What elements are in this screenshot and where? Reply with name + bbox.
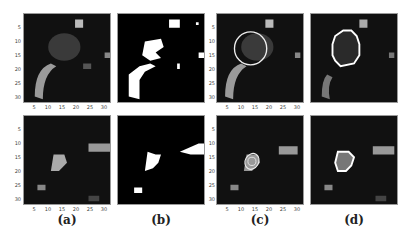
y-tick: 10	[9, 38, 21, 44]
x-tick: 20	[70, 206, 82, 212]
grayscale-with-circle-contour	[217, 14, 303, 102]
x-tick: 10	[235, 206, 247, 212]
y-tick: 5	[203, 24, 215, 30]
y-tick: 30	[203, 196, 215, 202]
y-tick: 5	[9, 126, 21, 132]
x-tick: 5	[28, 104, 40, 110]
grayscale-image	[24, 116, 110, 204]
x-tick: 5	[221, 206, 233, 212]
panel-b-top	[117, 13, 205, 103]
y-tick: 25	[9, 80, 21, 86]
x-tick: 10	[42, 104, 54, 110]
y-tick: 25	[203, 80, 215, 86]
x-tick: 20	[70, 104, 82, 110]
panel-a-bottom	[23, 115, 111, 205]
caption-c: (c)	[240, 213, 280, 227]
caption-b: (b)	[141, 213, 181, 227]
grayscale-with-boundary	[311, 14, 397, 102]
x-tick: 15	[56, 206, 68, 212]
x-tick: 15	[56, 104, 68, 110]
panel-c-bottom	[216, 115, 304, 205]
y-tick: 25	[9, 182, 21, 188]
panel-a-top	[23, 13, 111, 103]
grayscale-with-boundary	[311, 116, 397, 204]
y-tick: 25	[203, 182, 215, 188]
x-tick: 5	[221, 104, 233, 110]
x-tick: 25	[84, 104, 96, 110]
x-tick: 30	[291, 104, 303, 110]
y-tick: 20	[203, 66, 215, 72]
y-tick: 20	[9, 168, 21, 174]
panel-c-top	[216, 13, 304, 103]
x-tick: 10	[42, 206, 54, 212]
x-tick: 5	[28, 206, 40, 212]
x-tick: 30	[98, 104, 110, 110]
x-tick: 25	[277, 104, 289, 110]
y-tick: 10	[9, 140, 21, 146]
y-tick: 5	[203, 126, 215, 132]
y-tick: 10	[203, 38, 215, 44]
x-tick: 15	[249, 206, 261, 212]
y-tick: 15	[9, 154, 21, 160]
grayscale-image	[24, 14, 110, 102]
x-tick: 30	[98, 206, 110, 212]
y-tick: 10	[203, 140, 215, 146]
caption-a: (a)	[47, 213, 87, 227]
binary-mask	[118, 14, 204, 102]
y-tick: 15	[203, 52, 215, 58]
caption-d: (d)	[334, 213, 374, 227]
y-tick: 30	[203, 94, 215, 100]
y-tick: 15	[9, 52, 21, 58]
y-tick: 15	[203, 154, 215, 160]
y-tick: 20	[203, 168, 215, 174]
grayscale-with-contours	[217, 116, 303, 204]
x-tick: 25	[277, 206, 289, 212]
y-tick: 5	[9, 24, 21, 30]
y-tick: 20	[9, 66, 21, 72]
x-tick: 30	[291, 206, 303, 212]
x-tick: 20	[263, 104, 275, 110]
panel-d-bottom	[310, 115, 398, 205]
x-tick: 25	[84, 206, 96, 212]
panel-d-top	[310, 13, 398, 103]
panel-b-bottom	[117, 115, 205, 205]
x-tick: 20	[263, 206, 275, 212]
x-tick: 10	[235, 104, 247, 110]
y-tick: 30	[9, 94, 21, 100]
binary-mask	[118, 116, 204, 204]
y-tick: 30	[9, 196, 21, 202]
x-tick: 15	[249, 104, 261, 110]
